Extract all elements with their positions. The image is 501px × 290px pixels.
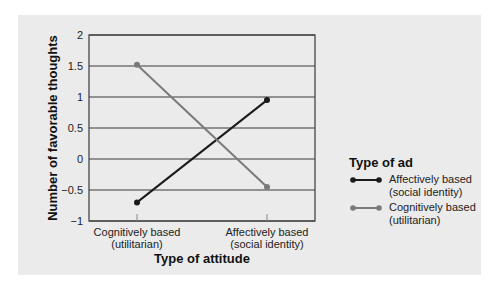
x-axis-categories: Cognitively based(utilitarian)Affectivel… [94,214,309,250]
series-line [137,100,267,202]
y-tick-label: −0.5 [61,184,83,196]
y-axis-ticks: 21.510.50−0.5−1 [61,29,83,227]
x-category-label: (social identity) [230,238,303,250]
y-tick-label: 1.5 [68,60,83,72]
line-chart: 21.510.50−0.5−1 Cognitively based(utilit… [0,0,501,290]
x-category-label: Cognitively based [94,226,181,238]
x-category-label: Affectively based [226,226,309,238]
legend-label: Affectively based(social identity) [389,173,472,199]
data-series [134,62,270,206]
legend-line-marker-icon [349,173,389,187]
data-point [264,97,270,103]
gridlines [89,35,315,221]
x-category-label: (utilitarian) [111,238,162,250]
data-point [264,184,270,190]
y-tick-label: −1 [70,215,83,227]
legend-item: Cognitively based(utilitarian) [349,201,476,227]
y-tick-label: 0.5 [68,122,83,134]
y-tick-label: 0 [77,153,83,165]
x-axis-title: Type of attitude [154,251,250,266]
series-line [137,65,267,187]
data-point [134,62,140,68]
legend-line-marker-icon [349,201,389,215]
y-tick-label: 2 [77,29,83,41]
legend: Type of ad Affectively based(social iden… [349,155,476,229]
legend-label: Cognitively based(utilitarian) [389,201,476,227]
legend-item: Affectively based(social identity) [349,173,476,199]
y-axis-title: Number of favorable thoughts [45,35,60,221]
y-tick-label: 1 [77,91,83,103]
legend-title: Type of ad [349,155,476,170]
data-point [134,199,140,205]
